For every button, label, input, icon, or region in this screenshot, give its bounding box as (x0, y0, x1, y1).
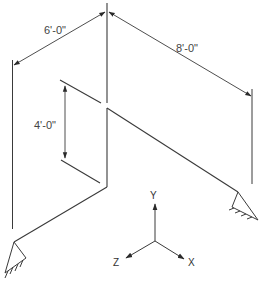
z-axis-label: Z (113, 257, 119, 268)
z-axis-arrow (126, 241, 155, 258)
dimension-4ft: 4'-0" (34, 86, 65, 158)
right-support-icon (229, 192, 258, 220)
y-axis-label: Y (150, 190, 157, 201)
dimension-4ft-label: 4'-0" (34, 119, 56, 131)
dimension-8ft-label: 8'-0" (176, 42, 198, 54)
dimension-6ft-label: 6'-0" (44, 24, 66, 36)
dimension-8ft: 8'-0" (109, 12, 251, 96)
dimension-6ft: 6'-0" (14, 12, 105, 65)
x-axis-label: X (188, 257, 195, 268)
x-axis-arrow (155, 241, 184, 259)
lower-pipe-branch (61, 160, 100, 183)
lower-pipe-run (14, 187, 107, 242)
piping-diagram: 6'-0" 8'-0" 4'-0" Y X Z (0, 0, 262, 282)
left-support-icon (5, 242, 26, 278)
coordinate-axes: Y X Z (113, 190, 195, 268)
